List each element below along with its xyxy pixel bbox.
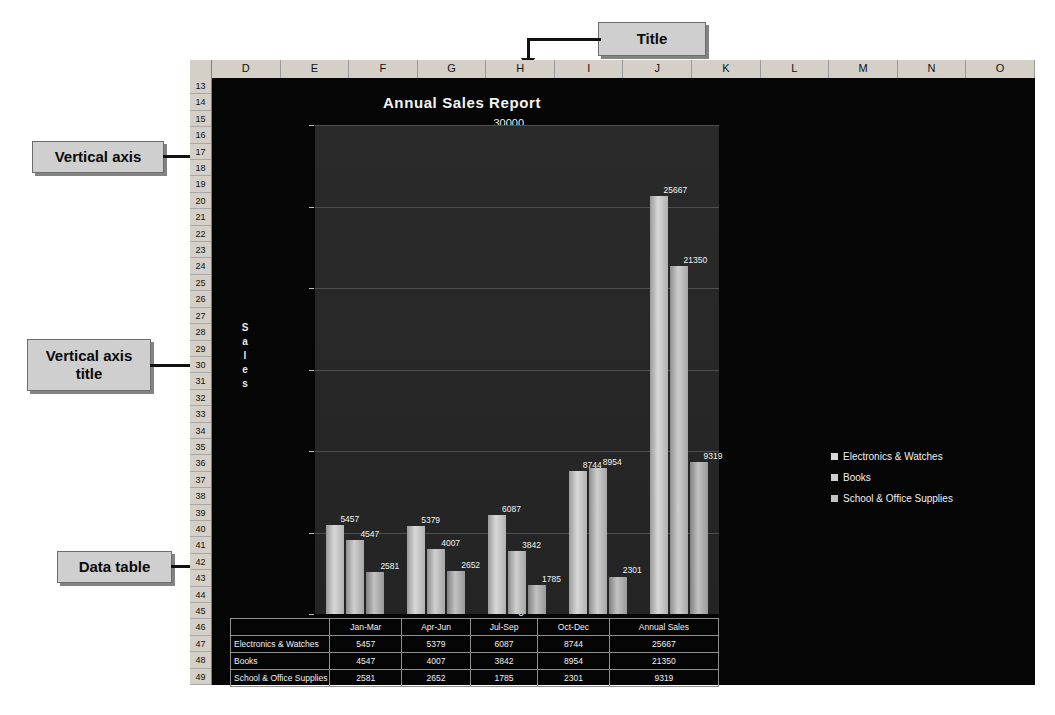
row-header-35[interactable]: 35 — [190, 439, 211, 455]
data-label: 4007 — [441, 538, 460, 548]
row-header-46[interactable]: 46 — [190, 619, 211, 635]
bar[interactable] — [690, 462, 708, 614]
table-cell: 2652 — [402, 670, 471, 687]
horizontal-axis-labels-row: Jan-MarApr-JunJul-SepOct-DecAnnual Sales — [231, 619, 719, 636]
bar[interactable] — [366, 572, 384, 614]
row-header-48[interactable]: 48 — [190, 652, 211, 668]
y-axis-tick-mark — [309, 451, 314, 452]
axis-category-label: Oct-Dec — [538, 619, 610, 636]
row-header-36[interactable]: 36 — [190, 455, 211, 471]
bar[interactable] — [488, 515, 506, 614]
row-header-31[interactable]: 31 — [190, 373, 211, 389]
row-header-20[interactable]: 20 — [190, 193, 211, 209]
row-header-34[interactable]: 34 — [190, 423, 211, 439]
legend-item[interactable]: Electronics & Watches — [831, 451, 953, 462]
bar[interactable] — [447, 571, 465, 614]
bar[interactable] — [609, 577, 627, 615]
chart-data-table: Jan-MarApr-JunJul-SepOct-DecAnnual Sales… — [230, 618, 719, 687]
column-header-j[interactable]: J — [623, 60, 692, 78]
row-header-27[interactable]: 27 — [190, 308, 211, 324]
column-header-f[interactable]: F — [349, 60, 418, 78]
row-header-gutter: 1314151617181920212223242526272829303132… — [190, 78, 212, 685]
row-header-15[interactable]: 15 — [190, 111, 211, 127]
column-header-k[interactable]: K — [692, 60, 761, 78]
bar[interactable] — [508, 551, 526, 614]
column-header-o[interactable]: O — [966, 60, 1035, 78]
chart[interactable]: Annual Sales Report Sales 30000250002000… — [212, 78, 1035, 685]
row-header-29[interactable]: 29 — [190, 341, 211, 357]
bar[interactable] — [670, 266, 688, 614]
y-axis-tick-mark — [309, 614, 314, 615]
row-header-40[interactable]: 40 — [190, 521, 211, 537]
row-header-47[interactable]: 47 — [190, 636, 211, 652]
row-header-28[interactable]: 28 — [190, 324, 211, 340]
y-axis-tick-mark — [309, 288, 314, 289]
legend-item[interactable]: Books — [831, 472, 953, 483]
table-row-label: Electronics & Watches — [231, 636, 330, 653]
legend-item[interactable]: School & Office Supplies — [831, 493, 953, 504]
row-header-38[interactable]: 38 — [190, 488, 211, 504]
callout-data-table: Data table — [57, 551, 172, 583]
bar[interactable] — [407, 526, 425, 614]
column-header-i[interactable]: I — [555, 60, 624, 78]
row-header-33[interactable]: 33 — [190, 406, 211, 422]
row-header-21[interactable]: 21 — [190, 209, 211, 225]
bar[interactable] — [528, 585, 546, 614]
chart-legend[interactable]: Electronics & WatchesBooksSchool & Offic… — [831, 451, 953, 514]
vertical-axis-title-letter: l — [238, 349, 252, 363]
title-leader-vertical — [527, 38, 530, 60]
row-header-14[interactable]: 14 — [190, 94, 211, 110]
row-header-45[interactable]: 45 — [190, 603, 211, 619]
row-header-32[interactable]: 32 — [190, 390, 211, 406]
row-header-42[interactable]: 42 — [190, 554, 211, 570]
column-header-e[interactable]: E — [281, 60, 350, 78]
column-header-d[interactable]: D — [212, 60, 281, 78]
row-header-23[interactable]: 23 — [190, 242, 211, 258]
row-header-24[interactable]: 24 — [190, 258, 211, 274]
row-header-22[interactable]: 22 — [190, 226, 211, 242]
row-header-25[interactable]: 25 — [190, 275, 211, 291]
row-header-41[interactable]: 41 — [190, 537, 211, 553]
data-label: 2581 — [380, 561, 399, 571]
select-all-corner[interactable] — [190, 60, 212, 78]
vertical-axis-title-letter: a — [238, 335, 252, 349]
table-row: School & Office Supplies2581265217852301… — [231, 670, 719, 687]
legend-label: School & Office Supplies — [843, 493, 953, 504]
bar[interactable] — [326, 525, 344, 614]
row-header-37[interactable]: 37 — [190, 472, 211, 488]
table-cell: 5379 — [402, 636, 471, 653]
bar[interactable] — [589, 468, 607, 614]
row-header-49[interactable]: 49 — [190, 669, 211, 685]
column-header-l[interactable]: L — [761, 60, 830, 78]
column-header-n[interactable]: N — [898, 60, 967, 78]
row-header-44[interactable]: 44 — [190, 587, 211, 603]
row-header-13[interactable]: 13 — [190, 78, 211, 94]
bar[interactable] — [427, 549, 445, 614]
table-row: Electronics & Watches5457537960878744256… — [231, 636, 719, 653]
legend-swatch-icon — [831, 453, 838, 460]
table-cell: 21350 — [609, 653, 718, 670]
row-header-26[interactable]: 26 — [190, 291, 211, 307]
table-cell: 1785 — [471, 670, 538, 687]
row-header-19[interactable]: 19 — [190, 176, 211, 192]
row-header-30[interactable]: 30 — [190, 357, 211, 373]
column-header-m[interactable]: M — [829, 60, 898, 78]
row-header-17[interactable]: 17 — [190, 144, 211, 160]
table-cell: 9319 — [609, 670, 718, 687]
data-label: 4547 — [360, 529, 379, 539]
row-header-39[interactable]: 39 — [190, 505, 211, 521]
column-header-h[interactable]: H — [486, 60, 555, 78]
row-header-18[interactable]: 18 — [190, 160, 211, 176]
column-header-g[interactable]: G — [418, 60, 487, 78]
row-header-43[interactable]: 43 — [190, 570, 211, 586]
title-leader-horizontal — [527, 38, 601, 41]
callout-title: Title — [598, 22, 706, 56]
table-cell: 4007 — [402, 653, 471, 670]
data-label: 21350 — [684, 255, 708, 265]
bar[interactable] — [346, 540, 364, 614]
bar[interactable] — [650, 196, 668, 614]
table-cell: 2301 — [538, 670, 610, 687]
bar[interactable] — [569, 471, 587, 614]
row-header-16[interactable]: 16 — [190, 127, 211, 143]
axis-category-label: Annual Sales — [609, 619, 718, 636]
